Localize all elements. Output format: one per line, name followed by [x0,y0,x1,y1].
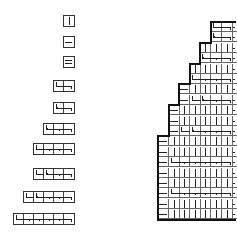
tableau-cell [200,95,211,105]
glyph-stroke [170,131,178,132]
glyph-stroke [184,169,185,177]
outline-stroke [189,63,201,65]
tableau-cell [158,147,169,157]
glyph-stroke [230,79,231,82]
glyph-stroke [222,79,230,80]
glyph-stroke [233,89,235,90]
tableau-cell [211,147,222,157]
glyph-stroke [205,193,206,195]
glyph-stroke [216,44,217,52]
glyph-stroke [216,117,217,125]
tableau-cell [211,178,222,188]
glyph-stroke [233,214,235,215]
glyph-stroke [222,193,230,194]
glyph-stroke [227,169,228,177]
tableau-cell [179,178,190,188]
glyph-stroke [205,137,206,145]
glyph-stroke [216,131,217,133]
glyph-stroke [233,48,235,49]
tableau-cell [179,116,190,126]
tableau-cell [200,168,211,178]
glyph-stroke [174,179,175,187]
glyph-stroke [227,65,228,73]
tableau-cell [211,209,222,219]
glyph-stroke [184,137,185,145]
tableau-cell [232,209,237,219]
glyph-stroke [227,200,228,208]
glyph-stroke [230,162,231,165]
glyph-stroke [205,44,206,52]
tableau-cell [158,199,169,209]
glyph-stroke [227,210,228,218]
glyph-stroke [230,131,231,134]
tableau-cell [232,95,237,105]
glyph-stroke [216,179,217,187]
glyph-stroke [195,85,196,93]
glyph-stroke [174,210,175,218]
glyph-stroke [233,152,235,153]
glyph-stroke [184,106,185,114]
glyph-stroke [216,65,217,73]
tableau-cell [200,188,211,198]
glyph-stroke [233,58,235,59]
glyph-stroke [216,169,217,177]
tableau-cell [200,126,211,136]
glyph-stroke [222,100,230,101]
glyph-stroke [233,37,235,38]
tableau-cell [200,74,211,84]
tableau-cell [179,136,190,146]
tableau-cell [232,157,237,167]
tableau-cell [158,188,169,198]
glyph-stroke [159,193,167,194]
glyph-stroke [184,179,185,187]
tableau-cell [200,209,211,219]
outline-stroke [199,42,212,44]
outline-stroke [157,135,170,137]
glyph-stroke [227,137,228,145]
tableau-cell [211,95,222,105]
glyph-stroke [233,100,235,101]
tableau-cell [158,168,169,178]
glyph-stroke [216,210,217,218]
glyph-stroke [195,179,196,187]
glyph-stroke [184,117,185,125]
tableau-cell [232,84,237,94]
tableau-cell [211,126,222,136]
glyph-stroke [216,58,217,60]
tableau-cell [158,136,169,146]
glyph-stroke [195,169,196,177]
tableau-cell [211,84,222,94]
tableau-cell [179,105,190,115]
glyph-stroke [227,148,228,156]
glyph-stroke [227,117,228,125]
glyph-stroke [216,106,217,114]
glyph-stroke [227,179,228,187]
tableau-cell [211,32,222,42]
glyph-stroke [230,27,231,30]
glyph-stroke [184,200,185,208]
glyph-stroke [233,141,235,142]
glyph-stroke [159,152,167,153]
glyph-stroke [233,79,235,80]
tableau-cell [211,64,222,74]
glyph-stroke [195,65,196,73]
tableau-cell [200,43,211,53]
tableau-cell [200,53,211,63]
staircase-tableau [0,0,237,233]
tableau-cell [179,168,190,178]
glyph-stroke [195,210,196,218]
tableau-cell [232,188,237,198]
tableau-cell [200,136,211,146]
glyph-stroke [202,58,211,59]
glyph-stroke [233,173,235,174]
glyph-stroke [222,162,230,163]
tableau-cell [158,209,169,219]
glyph-stroke [233,162,235,163]
glyph-stroke [180,89,188,90]
tableau-cell [232,136,237,146]
glyph-stroke [233,183,235,184]
tableau-cell [200,199,211,209]
glyph-stroke [159,214,167,215]
glyph-stroke [213,27,222,28]
glyph-stroke [184,148,185,156]
